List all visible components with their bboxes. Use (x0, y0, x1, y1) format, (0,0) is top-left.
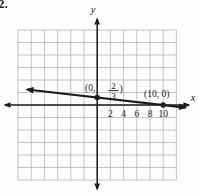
x-tick-label: 4 (121, 109, 126, 119)
y-intercept-label-close: ) (120, 84, 123, 95)
y-axis-label: y (90, 4, 96, 15)
x-tick-label: 10 (158, 109, 168, 119)
x-intercept-label: (10, 0) (144, 89, 169, 100)
fraction-numerator: 2 (111, 81, 116, 91)
y-intercept-label-open: (0, (85, 83, 95, 94)
y-axis-arrowhead-up (94, 18, 100, 25)
x-axis-arrowhead-left (4, 102, 11, 108)
coordinate-plane: 246810 y x (0, 2 3 ) (10, 0) (0, 0, 199, 196)
x-axis-label: x (190, 92, 196, 103)
x-tick-label: 2 (108, 109, 113, 119)
fraction-denominator: 3 (111, 91, 116, 101)
y-axis-arrowhead-down (94, 184, 100, 191)
plotted-point (95, 95, 100, 100)
x-tick-label: 8 (148, 109, 153, 119)
plotted-point (161, 102, 166, 107)
x-tick-label: 6 (134, 109, 139, 119)
